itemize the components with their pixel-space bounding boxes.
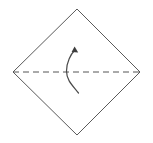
origami-diagram-svg [0, 0, 153, 143]
origami-diagram-canvas: paper square fold line fold up [0, 0, 153, 143]
